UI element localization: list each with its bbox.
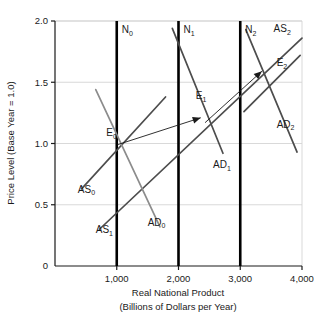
label-sub-E2: 2 [283, 63, 287, 70]
label-sub-AD0: 0 [162, 222, 166, 229]
x-tick-label-3: 3,000 [228, 273, 252, 284]
x-axis-title-line1: Real National Product [132, 287, 225, 298]
y-tick-label-3: 1.5 [35, 77, 48, 88]
y-tick-label-1: 0.5 [35, 199, 48, 210]
y-tick-label-4: 2.0 [35, 15, 48, 26]
x-tick-label-1: 1,000 [105, 273, 129, 284]
chart-container: N0N1N2AS0AS1AS2AD0AD1AD2E0E1E2 01,0002,0… [0, 0, 325, 328]
x-tick-label-4: 4,000 [290, 273, 314, 284]
label-sub-AD2: 2 [291, 124, 295, 131]
label-sub-AS0: 0 [91, 189, 95, 196]
label-sub-AD1: 1 [227, 165, 231, 172]
x-tick-label-2: 2,000 [167, 273, 191, 284]
label-sub-N0: 0 [129, 30, 133, 37]
x-axis-title-line2: (Billions of Dollars per Year) [119, 301, 236, 312]
x-tick-label-0: 0 [43, 260, 48, 271]
chart-background [0, 0, 325, 328]
label-sub-AS2: 2 [287, 29, 291, 36]
label-sub-AS1: 1 [109, 230, 113, 237]
label-sub-N1: 1 [191, 30, 195, 37]
label-sub-E1: 1 [202, 96, 206, 103]
y-tick-label-2: 1.0 [35, 138, 48, 149]
y-axis-title: Price Level (Base Year = 1.0) [5, 81, 16, 204]
label-sub-E0: 0 [113, 133, 117, 140]
label-sub-N2: 2 [252, 30, 256, 37]
economics-ad-as-chart: N0N1N2AS0AS1AS2AD0AD1AD2E0E1E2 01,0002,0… [0, 0, 325, 328]
